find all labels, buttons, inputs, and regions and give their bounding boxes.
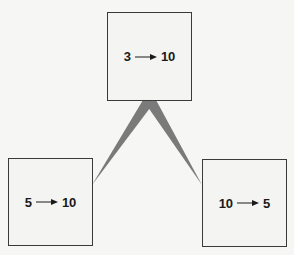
- connector-top-to-left: [92, 100, 156, 185]
- node-top-from: 3: [124, 49, 131, 64]
- node-top-to: 10: [161, 49, 175, 64]
- node-right-label: 10 5: [219, 196, 271, 211]
- right-arrow-icon: [36, 198, 58, 206]
- diagram-canvas: 3 10 5 10 10 5: [0, 0, 294, 255]
- node-right-from: 10: [219, 196, 233, 211]
- node-top-label: 3 10: [124, 49, 176, 64]
- right-arrow-icon: [135, 53, 157, 61]
- node-left: 5 10: [8, 158, 93, 246]
- node-right-to: 5: [263, 196, 270, 211]
- node-top: 3 10: [107, 12, 192, 101]
- node-left-from: 5: [25, 195, 32, 210]
- node-right: 10 5: [202, 159, 287, 247]
- node-left-label: 5 10: [25, 195, 77, 210]
- node-left-to: 10: [62, 195, 76, 210]
- connector-top-to-right: [143, 100, 202, 185]
- right-arrow-icon: [237, 199, 259, 207]
